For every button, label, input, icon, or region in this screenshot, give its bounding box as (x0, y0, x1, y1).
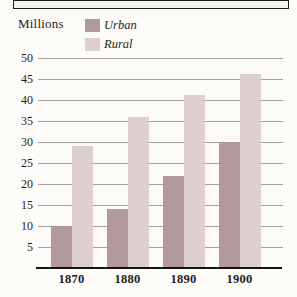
ytick-label-25: 25 (6, 155, 33, 171)
ytick-label-5: 5 (6, 239, 33, 255)
ytick-label-45: 45 (6, 71, 33, 87)
bar-urban-1880 (107, 209, 128, 267)
x-axis-line (36, 267, 282, 269)
gridline-50 (38, 58, 283, 59)
xtick-label-1870: 1870 (47, 272, 97, 287)
ytick-label-10: 10 (6, 218, 33, 234)
chart-figure: Millions UrbanRural 51015202530354045501… (0, 0, 297, 297)
ytick-label-50: 50 (6, 50, 33, 66)
bar-rural-1890 (184, 95, 205, 267)
ytick-label-35: 35 (6, 113, 33, 129)
xtick-label-1900: 1900 (215, 272, 265, 287)
plot-area: 51015202530354045501870188018901900 (0, 0, 297, 297)
ytick-label-30: 30 (6, 134, 33, 150)
ytick-label-40: 40 (6, 92, 33, 108)
ytick-label-15: 15 (6, 197, 33, 213)
xtick-label-1890: 1890 (159, 272, 209, 287)
bar-urban-1900 (219, 142, 240, 268)
bar-urban-1870 (51, 226, 72, 267)
bar-rural-1870 (72, 146, 93, 267)
xtick-label-1880: 1880 (103, 272, 153, 287)
bar-urban-1890 (163, 176, 184, 268)
bar-rural-1900 (240, 74, 261, 267)
ytick-label-20: 20 (6, 176, 33, 192)
bar-rural-1880 (128, 117, 149, 268)
